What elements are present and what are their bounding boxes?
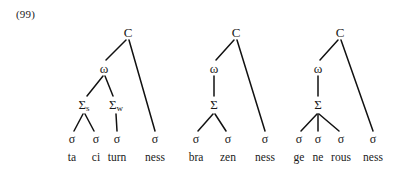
edge-omega-to-foot-strong [87, 76, 103, 96]
node-foot-0-1: Σw [109, 98, 123, 111]
edge-foot-to-sigma [301, 114, 317, 131]
word-label-0-1: ci [92, 152, 100, 164]
edge-foot-to-sigma [85, 114, 94, 131]
node-foot-1-0: Σ [210, 98, 218, 111]
node-sigma-0-3: σ [152, 133, 158, 145]
word-label-2-2: rous [331, 152, 351, 164]
node-omega-0: ω [100, 62, 109, 75]
edge-c-to-omega [216, 40, 234, 60]
edge-c-to-omega [106, 40, 126, 60]
edge-omega-to-foot-weak [105, 76, 113, 96]
node-omega-1: ω [210, 62, 219, 75]
word-label-1-1: zen [220, 152, 236, 164]
node-sigma-0-0: σ [69, 133, 75, 145]
node-c-0: C [124, 26, 133, 39]
node-sigma-2-0: σ [296, 133, 302, 145]
node-sigma-1-1: σ [225, 133, 231, 145]
edge-c-to-suffix-sigma [341, 40, 373, 131]
word-label-2-0: ge [294, 152, 305, 164]
node-sigma-2-1: σ [315, 133, 321, 145]
word-label-0-0: ta [68, 152, 76, 164]
edge-c-to-suffix-sigma [237, 40, 265, 131]
node-foot-0-0: Σs [78, 98, 89, 111]
word-label-1-2: ness [255, 152, 275, 164]
word-label-2-3: ness [363, 152, 383, 164]
edge-c-to-suffix-sigma [129, 40, 155, 131]
edge-c-to-omega [320, 40, 338, 60]
node-sigma-2-2: σ [338, 133, 344, 145]
node-sigma-2-3: σ [370, 133, 376, 145]
word-label-0-2: turn [108, 152, 127, 164]
node-omega-2: ω [314, 62, 323, 75]
figure-container: (99) CωΣsΣwσtaσciσturnσnessCωΣσbraσzenσn… [0, 0, 397, 170]
node-foot-2-0: Σ [314, 98, 322, 111]
edge-foot-to-sigma [215, 114, 226, 131]
node-c-2: C [336, 26, 345, 39]
word-label-0-3: ness [145, 152, 165, 164]
edge-foot-to-sigma [319, 114, 339, 131]
edge-foot-to-sigma [198, 114, 213, 131]
node-sigma-0-2: σ [114, 133, 120, 145]
node-sigma-0-1: σ [93, 133, 99, 145]
edge-foot-to-sigma [116, 114, 117, 131]
node-sigma-1-2: σ [262, 133, 268, 145]
node-sigma-1-0: σ [193, 133, 199, 145]
node-c-1: C [232, 26, 241, 39]
word-label-1-0: bra [189, 152, 204, 164]
word-label-2-1: ne [313, 152, 324, 164]
edge-foot-to-sigma [74, 114, 83, 131]
